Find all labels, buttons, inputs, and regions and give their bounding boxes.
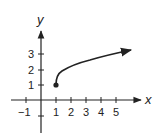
x-tick-label: −1 xyxy=(18,106,31,118)
y-axis-label: y xyxy=(36,12,45,27)
graph-canvas: −1 1 2 3 4 5 1 2 3 x y xyxy=(0,0,161,135)
y-tick-label: 2 xyxy=(28,64,34,76)
x-tick-label: 1 xyxy=(53,106,59,118)
start-point-dot xyxy=(53,82,58,87)
y-tick-label: 3 xyxy=(28,48,34,60)
x-tick-label: 2 xyxy=(68,106,74,118)
x-tick-label: 3 xyxy=(83,106,89,118)
x-axis-label: x xyxy=(144,92,152,107)
x-tick-label: 5 xyxy=(113,106,119,118)
function-curve xyxy=(56,50,131,85)
y-tick-label: 1 xyxy=(28,79,34,91)
x-tick-label: 4 xyxy=(98,106,104,118)
